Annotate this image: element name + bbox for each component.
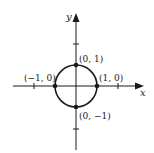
label-0-1: (0, 1): [79, 54, 103, 64]
y-axis-label: y: [65, 11, 72, 22]
y-axis: y: [65, 11, 80, 150]
point-0-neg1: [74, 105, 79, 110]
unit-circle-diagram: x y (0, 1) (1, 0) (−1, 0) (0, −1): [0, 0, 154, 153]
label-0-neg1: (0, −1): [79, 111, 111, 121]
point-1-0: [95, 84, 100, 89]
point-0-1: [74, 63, 79, 68]
x-axis: x: [13, 83, 146, 99]
x-axis-label: x: [140, 87, 146, 98]
point-neg1-0: [53, 84, 58, 89]
y-axis-arrowhead-icon: [73, 13, 80, 22]
label-neg1-0: (−1, 0): [24, 73, 56, 83]
label-1-0: (1, 0): [99, 73, 123, 83]
